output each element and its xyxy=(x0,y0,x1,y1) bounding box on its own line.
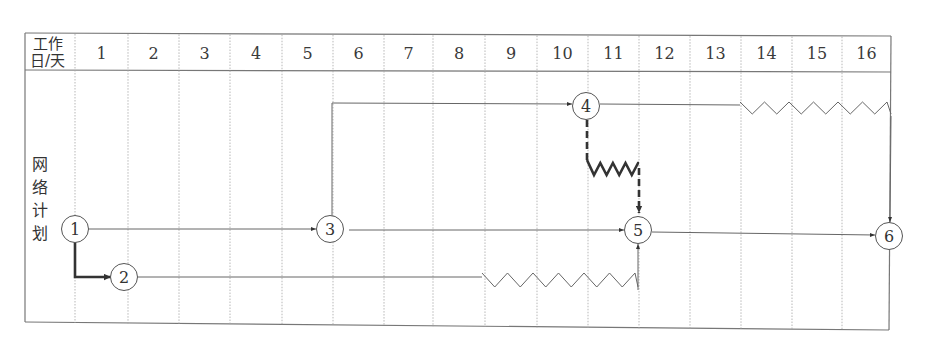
day-label: 9 xyxy=(506,44,516,63)
frame-bottom xyxy=(25,322,889,330)
day-label: 16 xyxy=(856,44,876,63)
day-label: 1 xyxy=(96,44,106,63)
side-label-char: 计 xyxy=(32,201,48,220)
node-label: 2 xyxy=(119,268,129,287)
free-float-2-5 xyxy=(482,273,638,287)
day-label: 15 xyxy=(807,44,827,63)
header-row: 工作 日/天 12345678910111213141516 xyxy=(30,35,877,70)
node-label: 6 xyxy=(884,227,894,246)
day-label: 11 xyxy=(603,44,623,63)
day-label: 6 xyxy=(353,44,363,63)
activity-4-6-work xyxy=(600,104,740,105)
day-label: 13 xyxy=(705,44,725,63)
header-corner-top: 工作 xyxy=(33,35,63,53)
nodes: 123456 xyxy=(62,93,903,291)
day-label: 5 xyxy=(302,44,312,63)
activity-5-6 xyxy=(652,232,875,235)
frame-top xyxy=(25,33,891,36)
day-grid xyxy=(75,34,842,331)
table-frame xyxy=(25,33,891,330)
node-2: 2 xyxy=(111,264,138,291)
day-label: 4 xyxy=(251,44,261,63)
frame-header-bottom xyxy=(25,70,891,72)
activity-1-2 xyxy=(75,241,111,277)
activity-3-4 xyxy=(332,103,572,216)
day-label: 7 xyxy=(403,44,413,63)
day-label: 12 xyxy=(654,44,674,63)
free-float-4-6 xyxy=(740,102,891,114)
side-label-char: 划 xyxy=(32,224,48,243)
header-corner-bottom: 日/天 xyxy=(30,52,65,70)
side-label: 网 络 计 划 xyxy=(32,155,48,243)
node-5: 5 xyxy=(625,217,652,244)
node-label: 4 xyxy=(581,97,591,116)
day-label: 2 xyxy=(148,44,158,63)
day-label: 8 xyxy=(454,44,464,63)
time-scaled-network-diagram: 工作 日/天 12345678910111213141516 网 络 计 划 xyxy=(0,0,928,350)
node-label: 5 xyxy=(633,221,643,240)
day-label: 14 xyxy=(756,44,776,63)
side-label-char: 络 xyxy=(32,178,48,197)
node-6: 6 xyxy=(876,223,903,250)
node-label: 1 xyxy=(70,220,80,239)
node-4: 4 xyxy=(573,93,600,120)
side-label-char: 网 xyxy=(32,155,48,174)
node-3: 3 xyxy=(317,216,344,243)
activities xyxy=(75,102,891,290)
day-label: 10 xyxy=(552,44,572,63)
dummy-float-4-5 xyxy=(587,160,639,175)
node-label: 3 xyxy=(325,220,335,239)
day-labels: 12345678910111213141516 xyxy=(96,44,876,63)
day-label: 3 xyxy=(199,44,209,63)
node-1: 1 xyxy=(62,216,89,243)
